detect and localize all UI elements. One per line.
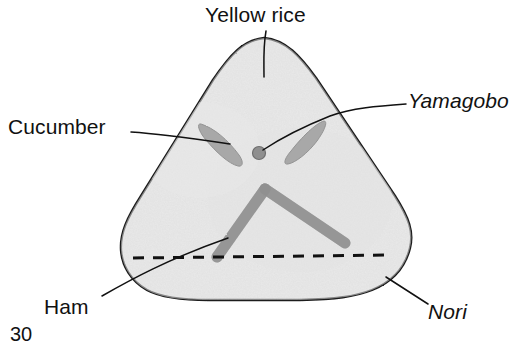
page-number: 30 xyxy=(10,323,32,346)
figure-onigiri-diagram: Yellow rice Yamagobo Cucumber Ham Nori 3… xyxy=(0,0,529,348)
leader-nori xyxy=(386,277,428,304)
center-dot xyxy=(253,147,266,160)
label-yellow-rice: Yellow rice xyxy=(205,4,306,26)
label-ham: Ham xyxy=(44,296,89,318)
label-cucumber: Cucumber xyxy=(8,116,106,138)
label-nori: Nori xyxy=(428,301,467,323)
label-yamagobo: Yamagobo xyxy=(408,90,509,112)
